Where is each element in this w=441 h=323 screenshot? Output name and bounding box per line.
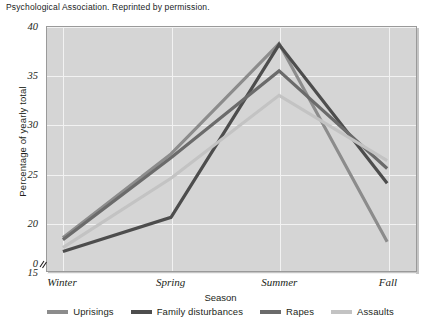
x-tick-label: Fall [345, 276, 431, 288]
chart-legend: UprisingsFamily disturbancesRapesAssault… [0, 306, 441, 317]
legend-swatch-icon [131, 310, 152, 314]
series-line-uprisings [63, 44, 387, 242]
legend-item-uprisings[interactable]: Uprisings [47, 306, 114, 317]
legend-label: Rapes [286, 306, 314, 317]
plot-area [46, 26, 417, 272]
legend-label: Assaults [357, 306, 394, 317]
x-tick-label: Spring [128, 276, 214, 288]
series-line-family-disturbances [63, 45, 387, 252]
y-tick-label-zero: 0 [0, 258, 38, 269]
x-axis-label: Season [0, 292, 441, 303]
legend-label: Uprisings [73, 306, 114, 317]
series-line-assaults [63, 95, 387, 247]
legend-swatch-icon [331, 310, 352, 314]
legend-item-family-disturbances[interactable]: Family disturbances [131, 306, 243, 317]
gridline-horizontal [47, 273, 416, 274]
axis-break-icon [38, 256, 52, 270]
y-tick-label: 40 [0, 21, 38, 32]
series-lines [47, 27, 416, 271]
legend-swatch-icon [47, 310, 68, 314]
legend-swatch-icon [260, 310, 281, 314]
legend-label: Family disturbances [157, 306, 243, 317]
legend-item-rapes[interactable]: Rapes [260, 306, 314, 317]
x-tick-label: Summer [236, 276, 322, 288]
y-axis-label: Percentage of yearly total [17, 62, 28, 222]
line-chart-figure: 4035302520150 Percentage of yearly total… [0, 18, 441, 323]
legend-item-assaults[interactable]: Assaults [331, 306, 394, 317]
x-tick-label: Winter [19, 276, 105, 288]
figure-caption: Psychological Association. Reprinted by … [6, 2, 210, 12]
